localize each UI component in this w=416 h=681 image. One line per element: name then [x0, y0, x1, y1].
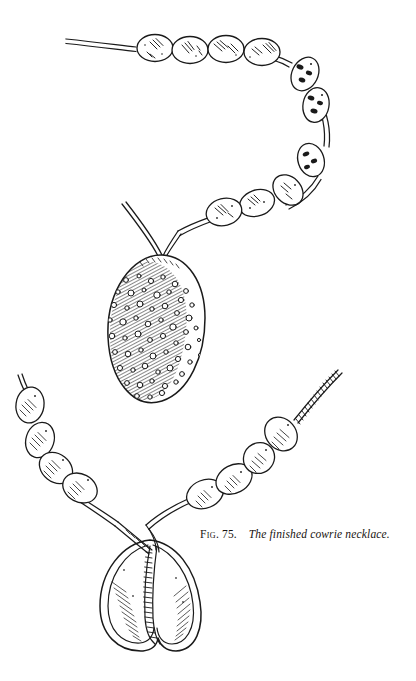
- figure-caption: Fig. 75. The finished cowrie necklace.: [200, 528, 390, 540]
- bead-group-lower-left: [14, 385, 103, 509]
- figure-plate: Fig. 75. The finished cowrie necklace.: [0, 0, 416, 681]
- bead: [14, 385, 47, 425]
- bead: [137, 35, 173, 62]
- cowrie-shell-dorsal: [100, 250, 215, 410]
- bead-group-lower-right: [182, 411, 304, 515]
- bead: [244, 39, 280, 66]
- upper-necklace-cord: [66, 39, 330, 257]
- upper-necklace: [66, 35, 332, 411]
- figure-caption-text: The finished cowrie necklace.: [249, 528, 390, 540]
- figure-caption-number: 75.: [222, 528, 237, 540]
- bead: [293, 140, 328, 180]
- bead: [236, 185, 279, 222]
- bead: [203, 195, 244, 230]
- bead: [172, 37, 208, 64]
- cowrie-shell-ventral: [100, 522, 201, 651]
- bead: [208, 36, 244, 63]
- bead-group-upper-right: [286, 53, 332, 125]
- bead-group-upper-top: [137, 35, 280, 66]
- necklace-illustration: [0, 0, 416, 681]
- lower-necklace-cord: [18, 370, 342, 529]
- lower-necklace: [14, 370, 342, 651]
- figure-caption-label: Fig.: [200, 528, 219, 540]
- bead-group-upper-lower-right: [203, 140, 328, 230]
